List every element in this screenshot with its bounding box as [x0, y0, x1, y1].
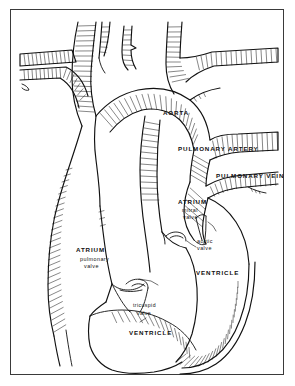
- hatch-right-vertical: [167, 27, 189, 82]
- left-ventricle-group: [176, 248, 255, 374]
- label-pulmonary-vein: PULMONARY VEIN: [216, 173, 284, 179]
- valves-group: [112, 215, 206, 312]
- hatch-svc: [48, 168, 72, 332]
- great-vessels-group: [20, 22, 278, 126]
- hatch-septum: [141, 122, 160, 200]
- label-right-ventricle: VENTRICLE: [129, 330, 172, 336]
- label-aortic-valve-line1: aortic: [197, 239, 213, 244]
- septum-group: [140, 116, 186, 272]
- right-atrium-group: [99, 206, 144, 290]
- hatch-lv-apex: [176, 281, 238, 366]
- label-tricuspid-valve-line2: valve: [137, 311, 151, 316]
- superior-vena-cava-group: [48, 116, 100, 366]
- label-left-atrium: ATRIUM: [178, 199, 207, 205]
- hatch-left-lower-vessel: [24, 69, 86, 101]
- label-pulmonary-artery: PULMONARY ARTERY: [178, 146, 259, 152]
- label-pulmonary-valve-line2: valve: [84, 264, 99, 269]
- label-mitral-valve-line2: valve: [183, 215, 198, 220]
- label-tricuspid-valve-line1: tricuspid: [133, 303, 156, 308]
- hatch-right-upper-horizontal: [196, 49, 276, 70]
- label-mitral-valve-line1: mitral: [182, 208, 198, 213]
- label-aortic-valve-line2: valve: [197, 246, 212, 251]
- label-right-atrium: ATRIUM: [76, 247, 105, 253]
- label-pulmonary-valve-line1: pulmonary: [80, 257, 109, 262]
- label-left-ventricle: VENTRICLE: [196, 270, 239, 276]
- heart-anatomy-figure: .o { fill:none; stroke:#111; stroke-widt…: [0, 0, 295, 386]
- label-aorta: AORTA: [163, 110, 189, 116]
- hatch-aortic-arch: [100, 94, 197, 144]
